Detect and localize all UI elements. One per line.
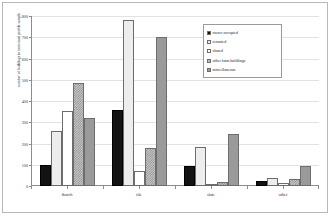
x-axis-boundary-tick	[103, 186, 104, 189]
bar	[228, 134, 239, 186]
y-tick-label: 0	[26, 184, 28, 189]
bar	[289, 179, 300, 186]
x-tick-label: tile	[136, 192, 142, 197]
legend-label: other farm buildings	[213, 59, 246, 63]
y-axis-title: number of buildings in farmstead profile…	[18, 0, 22, 125]
legend-swatch-icon	[207, 40, 211, 44]
bar-group	[31, 16, 103, 186]
bar-group	[103, 16, 175, 186]
bar	[112, 110, 123, 187]
legend-label: owner occupied	[213, 31, 238, 35]
y-tick-label: 300	[22, 120, 28, 125]
bar	[300, 166, 311, 186]
y-tick-label: 200	[22, 141, 28, 146]
bar	[73, 83, 84, 186]
y-tick-label: 600	[22, 56, 28, 61]
legend-label: shared	[213, 49, 223, 53]
y-tick-label: 500	[22, 77, 28, 82]
legend-item: miscellaneous	[207, 65, 278, 74]
y-tick-label: 700	[22, 35, 28, 40]
legend-label: miscellaneous	[213, 68, 236, 72]
bar	[145, 148, 156, 186]
bar	[217, 182, 228, 186]
bar	[51, 131, 62, 186]
legend-swatch-icon	[207, 49, 211, 53]
x-tick-mark	[139, 186, 140, 189]
y-tick-label: 400	[22, 99, 28, 104]
legend-item: owner occupied	[207, 28, 278, 37]
bar	[40, 165, 51, 186]
x-tick-label: thatch	[62, 192, 73, 197]
legend-item: shared	[207, 47, 278, 56]
legend-swatch-icon	[207, 68, 211, 72]
bar	[62, 111, 73, 186]
y-tick-label: 800	[22, 14, 28, 19]
x-tick-label: other	[278, 192, 287, 197]
bar	[84, 118, 95, 186]
x-tick-mark	[283, 186, 284, 189]
x-axis-boundary-tick	[175, 186, 176, 189]
x-tick-mark	[211, 186, 212, 189]
x-tick-mark	[67, 186, 68, 189]
x-axis-boundary-tick	[31, 186, 32, 189]
bar	[184, 166, 195, 186]
bar	[267, 178, 278, 187]
legend-swatch-icon	[207, 31, 211, 35]
legend-swatch-icon	[207, 59, 211, 63]
x-tick-label: slate	[207, 192, 215, 197]
x-axis-boundary-tick	[247, 186, 248, 189]
bar	[134, 171, 145, 186]
legend-item: other farm buildings	[207, 56, 278, 65]
x-axis-boundary-tick	[318, 186, 319, 189]
bar	[256, 181, 267, 186]
bar	[156, 37, 167, 186]
legend: owner occupiedtenantedsharedother farm b…	[203, 24, 282, 78]
legend-item: tenanted	[207, 37, 278, 46]
bar-chart-figure: number of buildings in farmstead profile…	[0, 0, 331, 216]
y-tick-label: 100	[22, 162, 28, 167]
legend-label: tenanted	[213, 40, 227, 44]
bar	[195, 147, 206, 186]
bar	[123, 20, 134, 186]
